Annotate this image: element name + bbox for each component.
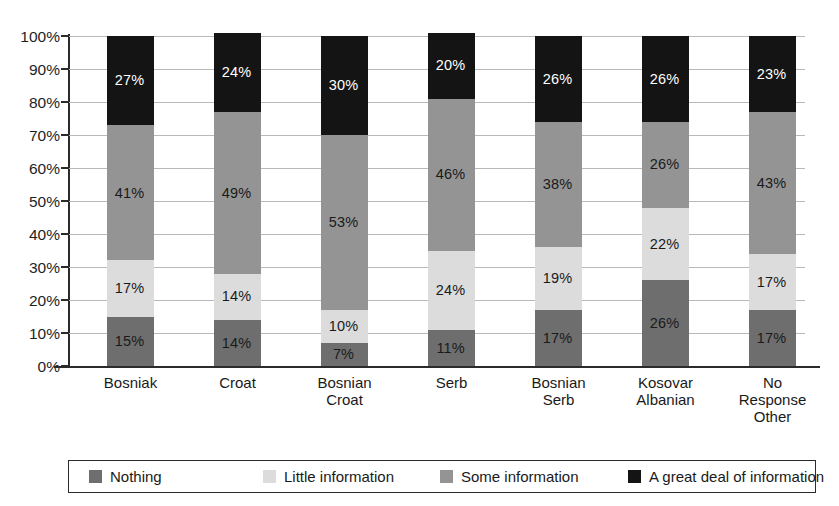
bar-segment[interactable]: 14% xyxy=(214,274,261,320)
bar-segment[interactable]: 27% xyxy=(107,36,154,125)
y-axis-tick-label: 50% xyxy=(2,194,60,210)
bar-segment[interactable]: 10% xyxy=(321,310,368,343)
bar-segment[interactable]: 46% xyxy=(428,99,475,251)
category-label-line: Serb xyxy=(499,391,619,408)
bar-segment-value-label: 24% xyxy=(222,65,251,80)
stacked-bar[interactable]: 23%43%17%17% xyxy=(749,36,796,366)
plot-area: 27%41%17%15%24%49%14%14%30%53%10%7%20%46… xyxy=(68,36,805,366)
y-axis-tick-label: 80% xyxy=(2,95,60,111)
bar-segment[interactable]: 11% xyxy=(428,330,475,366)
y-axis-tick-label: 70% xyxy=(2,128,60,144)
stacked-bar[interactable]: 27%41%17%15% xyxy=(107,36,154,366)
legend-item[interactable]: Nothing xyxy=(89,469,162,484)
bar-segment[interactable]: 43% xyxy=(749,112,796,254)
stacked-bar[interactable]: 26%38%19%17% xyxy=(535,36,582,366)
bar-segment-value-label: 17% xyxy=(757,331,786,346)
bar-segment[interactable]: 30% xyxy=(321,36,368,135)
x-axis-category-label: BosnianCroat xyxy=(285,374,405,408)
bar-segment[interactable]: 17% xyxy=(535,310,582,366)
x-axis-category-label: NoResponseOther xyxy=(713,374,833,425)
category-label-line: Other xyxy=(713,408,833,425)
y-axis-tick-label: 20% xyxy=(2,293,60,309)
bar-segment[interactable]: 23% xyxy=(749,36,796,112)
y-axis-tick xyxy=(61,299,69,301)
bar-segment[interactable]: 26% xyxy=(642,280,689,366)
stacked-bar[interactable]: 26%26%22%26% xyxy=(642,36,689,366)
bar-segment-value-label: 23% xyxy=(757,67,786,82)
category-label-line: Response xyxy=(713,391,833,408)
legend-item[interactable]: Little information xyxy=(263,469,394,484)
bar-segment-value-label: 24% xyxy=(436,283,465,298)
stacked-bar[interactable]: 20%46%24%11% xyxy=(428,33,475,366)
y-axis-tick-label: 60% xyxy=(2,161,60,177)
bar-segment-value-label: 26% xyxy=(543,72,572,87)
bar-segment[interactable]: 38% xyxy=(535,122,582,247)
x-axis-category-label: BosnianSerb xyxy=(499,374,619,408)
y-axis-tick-label: 40% xyxy=(2,227,60,243)
y-axis-tick-label: 90% xyxy=(2,62,60,78)
bar-segment[interactable]: 17% xyxy=(749,310,796,366)
y-axis-tick-label: 30% xyxy=(2,260,60,276)
category-label-line: No xyxy=(713,374,833,391)
category-label-line: Croat xyxy=(285,391,405,408)
bar-segment-value-label: 14% xyxy=(222,289,251,304)
y-axis-tick xyxy=(61,35,69,37)
bar-segment[interactable]: 22% xyxy=(642,208,689,281)
bar-segment-value-label: 26% xyxy=(650,157,679,172)
bar-segment[interactable]: 15% xyxy=(107,317,154,367)
legend-label: Nothing xyxy=(110,469,162,484)
bar-segment[interactable]: 20% xyxy=(428,33,475,99)
bar-segment-value-label: 14% xyxy=(222,336,251,351)
bar-segment[interactable]: 14% xyxy=(214,320,261,366)
legend-item[interactable]: A great deal of information xyxy=(628,469,824,484)
bar-segment-value-label: 10% xyxy=(329,319,358,334)
bar-segment[interactable]: 17% xyxy=(749,254,796,310)
stacked-bar[interactable]: 30%53%10%7% xyxy=(321,36,368,366)
y-axis-tick xyxy=(61,233,69,235)
bar-segment-value-label: 49% xyxy=(222,186,251,201)
y-axis-tick-label: 10% xyxy=(2,326,60,342)
legend-label: A great deal of information xyxy=(649,469,824,484)
category-label-line: Croat xyxy=(178,374,298,391)
category-label-line: Bosnian xyxy=(285,374,405,391)
bar-segment[interactable]: 26% xyxy=(642,122,689,208)
category-label-line: Bosniak xyxy=(71,374,191,391)
y-axis-tick xyxy=(61,200,69,202)
bar-segment[interactable]: 24% xyxy=(214,33,261,112)
y-axis-tick xyxy=(61,365,69,367)
bar-segment-value-label: 53% xyxy=(329,215,358,230)
legend-label: Little information xyxy=(284,469,394,484)
bar-segment-value-label: 41% xyxy=(115,186,144,201)
bar-segment[interactable]: 17% xyxy=(107,260,154,316)
y-axis-tick xyxy=(61,332,69,334)
y-axis-tick xyxy=(61,167,69,169)
bar-segment[interactable]: 41% xyxy=(107,125,154,260)
bar-segment-value-label: 20% xyxy=(436,58,465,73)
category-label-line: Albanian xyxy=(606,391,726,408)
y-axis-tick-label: 0% xyxy=(2,359,60,375)
bar-segment[interactable]: 53% xyxy=(321,135,368,310)
bar-segment[interactable]: 26% xyxy=(535,36,582,122)
bar-segment-value-label: 17% xyxy=(115,281,144,296)
stacked-bar-chart: 100%90%80%70%60%50%40%30%20%10%0% 27%41%… xyxy=(0,0,839,506)
bar-segment-value-label: 11% xyxy=(436,341,464,356)
bar-segment[interactable]: 7% xyxy=(321,343,368,366)
chart-legend: NothingLittle informationSome informatio… xyxy=(68,460,816,493)
bar-segment-value-label: 19% xyxy=(543,271,572,286)
x-axis-category-label: Serb xyxy=(392,374,512,391)
legend-items: NothingLittle informationSome informatio… xyxy=(69,461,815,492)
legend-label: Some information xyxy=(461,469,579,484)
y-axis-tick xyxy=(61,68,69,70)
bar-segment-value-label: 38% xyxy=(543,177,572,192)
legend-swatch-icon xyxy=(263,470,276,483)
bar-segment[interactable]: 26% xyxy=(642,36,689,122)
legend-item[interactable]: Some information xyxy=(440,469,579,484)
bar-segment-value-label: 17% xyxy=(543,331,572,346)
legend-swatch-icon xyxy=(628,470,641,483)
y-axis-tick xyxy=(61,101,69,103)
bar-segment-value-label: 46% xyxy=(436,167,465,182)
bar-segment[interactable]: 19% xyxy=(535,247,582,310)
stacked-bar[interactable]: 24%49%14%14% xyxy=(214,33,261,366)
bar-segment[interactable]: 24% xyxy=(428,251,475,330)
bar-segment[interactable]: 49% xyxy=(214,112,261,274)
